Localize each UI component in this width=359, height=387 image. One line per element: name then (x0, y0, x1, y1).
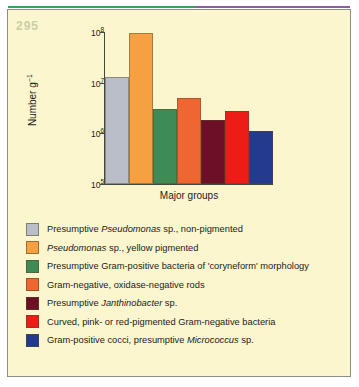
legend-item: Curved, pink- or red-pigmented Gram-nega… (26, 315, 346, 329)
legend-label: Presumptive Gram-positive bacteria of 'c… (47, 261, 309, 271)
bar-series (105, 32, 273, 184)
bar (105, 77, 129, 184)
legend-swatch (26, 315, 39, 328)
legend-label: Gram-negative, oxidase-negative rods (47, 280, 205, 290)
legend-item: Gram-positive cocci, presumptive Microco… (26, 333, 346, 347)
legend-item: Presumptive Janthinobacter sp. (26, 296, 346, 310)
legend-swatch (26, 223, 39, 236)
bar (153, 109, 177, 184)
legend-swatch (26, 241, 39, 254)
legend-swatch (26, 260, 39, 273)
chart-legend: Presumptive Pseudomonas sp., non-pigment… (26, 222, 346, 352)
y-tick-mark (100, 184, 104, 185)
bar (129, 33, 153, 184)
legend-swatch (26, 334, 39, 347)
legend-label: Pseudomonas sp., yellow pigmented (47, 243, 198, 253)
legend-item: Gram-negative, oxidase-negative rods (26, 278, 346, 292)
bar (177, 98, 201, 184)
legend-label: Curved, pink- or red-pigmented Gram-nega… (47, 317, 275, 327)
bar (225, 111, 249, 184)
y-axis-title-exponent: −1 (26, 74, 33, 82)
x-axis-title: Major groups (104, 190, 274, 201)
legend-item: Presumptive Gram-positive bacteria of 'c… (26, 259, 346, 273)
decorative-top-rule (8, 6, 350, 8)
y-tick-mark (100, 133, 104, 134)
y-axis-title: Number g−1 (26, 45, 38, 155)
y-tick-mark (100, 32, 104, 33)
chart-plot-area: Number g−1 108107106105 Major groups (8, 10, 352, 215)
y-tick-mark (100, 83, 104, 84)
legend-label: Presumptive Pseudomonas sp., non-pigment… (47, 224, 243, 234)
legend-swatch (26, 278, 39, 291)
legend-item: Presumptive Pseudomonas sp., non-pigment… (26, 222, 346, 236)
bar (249, 131, 273, 184)
legend-label: Gram-positive cocci, presumptive Microco… (47, 335, 254, 345)
legend-item: Pseudomonas sp., yellow pigmented (26, 241, 346, 255)
legend-swatch (26, 297, 39, 310)
legend-label: Presumptive Janthinobacter sp. (47, 298, 177, 308)
x-axis-line (104, 184, 273, 185)
y-axis-title-text: Number g (27, 82, 38, 126)
figure-panel: 295 Number g−1 108107106105 Major groups… (7, 9, 351, 377)
bar (201, 120, 225, 184)
